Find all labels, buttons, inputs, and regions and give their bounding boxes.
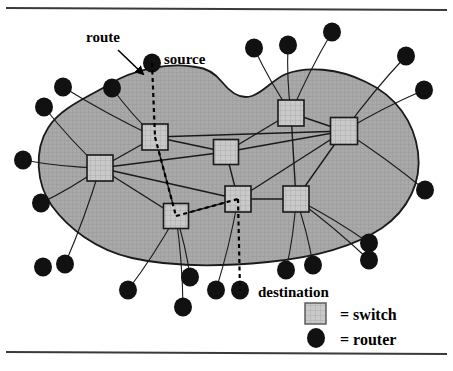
router-node	[323, 23, 341, 42]
top-rule	[6, 8, 447, 10]
router-node	[103, 79, 121, 98]
router-node	[14, 151, 32, 170]
router-node	[56, 255, 74, 274]
router-node	[34, 258, 52, 277]
destination-label: destination	[258, 284, 330, 300]
router-node	[304, 256, 322, 275]
switch-node	[87, 155, 113, 181]
switch-node	[331, 118, 358, 145]
router-node	[279, 36, 297, 55]
router-node	[416, 181, 434, 200]
switch-box	[87, 155, 113, 181]
router-node	[277, 261, 295, 280]
switch-box	[283, 186, 309, 212]
source-label: source	[164, 51, 206, 67]
switch-node	[278, 100, 304, 126]
router-node	[32, 194, 50, 213]
switch-box	[278, 100, 304, 126]
router-node	[360, 251, 378, 270]
router-node	[245, 39, 263, 58]
route-annotation: route	[86, 29, 143, 74]
router-node	[397, 47, 415, 66]
router-node	[174, 298, 192, 317]
router-node	[181, 268, 199, 287]
router-node	[207, 281, 225, 300]
bottom-rule	[6, 352, 447, 354]
switch-node	[214, 140, 239, 165]
network-diagram-figure: route source destination = switch = rout…	[0, 0, 453, 371]
router-node	[360, 234, 378, 253]
router-node	[35, 98, 53, 117]
switch-node	[283, 186, 309, 212]
route-label: route	[86, 29, 120, 45]
legend-router-swatch	[307, 328, 325, 348]
legend-switch-label: = switch	[340, 306, 397, 323]
router-node	[415, 81, 433, 100]
switch-box	[214, 140, 239, 165]
route-arrow	[118, 50, 143, 74]
switch-box	[331, 118, 358, 145]
legend: = switch = router	[305, 303, 397, 348]
router-node	[119, 281, 137, 300]
legend-router-label: = router	[340, 331, 396, 348]
router-node	[54, 78, 72, 97]
legend-switch-swatch	[305, 303, 326, 324]
